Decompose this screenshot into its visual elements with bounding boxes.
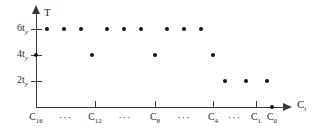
x-axis-tick-label: C12 — [88, 111, 102, 125]
data-point — [62, 27, 66, 31]
data-point — [105, 27, 109, 31]
x-axis-ellipsis: ··· — [59, 112, 72, 123]
data-point — [45, 27, 49, 31]
y-axis-tick — [31, 81, 42, 82]
x-axis-ellipsis: ··· — [228, 112, 241, 123]
x-axis-arrow-icon — [283, 103, 292, 111]
data-point — [199, 27, 203, 31]
y-axis-tick-label: 6ty — [2, 22, 28, 36]
data-point — [244, 79, 248, 83]
x-axis-line — [36, 107, 286, 108]
data-point — [79, 27, 83, 31]
data-point — [211, 53, 215, 57]
data-point — [270, 105, 274, 109]
x-axis-title: Ci — [297, 98, 306, 113]
y-axis-tick-label: 4ty — [2, 48, 28, 62]
scatter-plot-figure: T Ci 6ty4ty2ty C16C12C8C4C1C0 ··········… — [0, 0, 323, 132]
x-axis-tick — [95, 101, 96, 108]
data-point — [223, 79, 227, 83]
y-axis-line — [36, 12, 37, 108]
data-point — [265, 79, 269, 83]
data-point — [153, 53, 157, 57]
x-axis-ellipsis: ··· — [119, 112, 132, 123]
x-axis-ellipsis: ··· — [178, 112, 191, 123]
x-axis-tick-label: C16 — [29, 111, 43, 125]
data-point — [90, 53, 94, 57]
data-point — [165, 27, 169, 31]
y-axis-tick — [31, 29, 42, 30]
x-axis-tick — [213, 101, 214, 108]
data-point — [122, 27, 126, 31]
y-axis-arrow-icon — [32, 5, 40, 14]
data-point — [182, 27, 186, 31]
x-axis-tick — [155, 101, 156, 108]
x-axis-tick — [36, 101, 37, 108]
y-axis-title: T — [44, 6, 51, 18]
x-axis-tick — [256, 101, 257, 108]
x-axis-tick-label: C4 — [208, 111, 218, 125]
x-axis-tick-label: C1 — [251, 111, 261, 125]
y-axis-tick-label: 2ty — [2, 74, 28, 88]
x-axis-tick-label: C0 — [267, 111, 277, 125]
x-axis-tick-label: C8 — [150, 111, 160, 125]
data-point — [34, 53, 38, 57]
data-point — [139, 27, 143, 31]
